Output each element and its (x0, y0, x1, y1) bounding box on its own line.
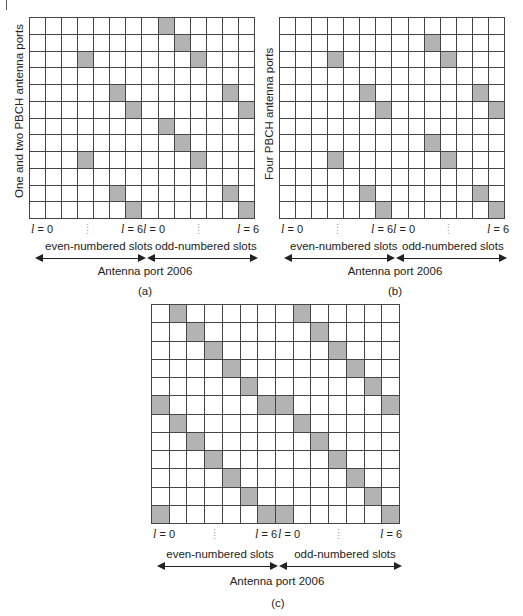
grid-cell (311, 396, 329, 414)
grid-cell (170, 378, 188, 396)
grid-cell (205, 469, 223, 487)
grid-cell (258, 360, 276, 378)
grid-cell (280, 35, 296, 52)
grid-cell (328, 135, 344, 152)
grid-cell (170, 433, 188, 451)
grid-cell (329, 433, 347, 451)
grid-cell (159, 52, 175, 69)
grid-cell (489, 85, 505, 102)
antenna-port-label-b: Antenna port 2006 (340, 265, 450, 277)
grid-cell (311, 506, 329, 524)
grid-cell (207, 18, 223, 35)
grid-cell (347, 488, 365, 506)
grid-cell (175, 102, 191, 119)
grid-cell (392, 186, 408, 203)
grid-cell (280, 202, 296, 219)
grid-cell (241, 451, 259, 469)
grid-cell (126, 35, 142, 52)
grid-cell (365, 506, 383, 524)
grid-cell (205, 378, 223, 396)
grid-cell (409, 202, 425, 219)
grid-cell (344, 35, 360, 52)
grid-cell (78, 85, 94, 102)
grid-cell (187, 415, 205, 433)
grid-cell (457, 52, 473, 69)
grid-cell (347, 415, 365, 433)
reference-signal-cell (382, 506, 400, 524)
grid-cell (376, 135, 392, 152)
reference-signal-cell (175, 135, 191, 152)
grid-cell (360, 52, 376, 69)
grid-cell (489, 119, 505, 136)
grid-cell (409, 186, 425, 203)
reference-signal-cell (110, 85, 126, 102)
grid-cell (205, 396, 223, 414)
reference-signal-cell (191, 52, 207, 69)
grid-cell (441, 135, 457, 152)
grid-cell (382, 360, 400, 378)
grid-cell (294, 360, 312, 378)
tick-l0-mid-a: l = 0 (143, 222, 165, 237)
grid-cell (457, 169, 473, 186)
grid-cell (365, 451, 383, 469)
grid-cell (441, 186, 457, 203)
grid-cell (205, 506, 223, 524)
grid-cell (280, 85, 296, 102)
grid-cell (152, 433, 170, 451)
grid-cell (126, 186, 142, 203)
grid-cell (425, 18, 441, 35)
grid-cell (239, 18, 255, 35)
grid-cell (241, 396, 259, 414)
grid-cell (365, 342, 383, 360)
reference-signal-cell (223, 360, 241, 378)
grid-cell (223, 68, 239, 85)
grid-cell (473, 18, 489, 35)
grid-cell (489, 135, 505, 152)
reference-signal-cell (223, 85, 239, 102)
grid-cell (170, 342, 188, 360)
grid-cell (365, 396, 383, 414)
tick-l0-left-c: l = 0 (153, 527, 175, 542)
grid-cell (191, 186, 207, 203)
grid-cell (392, 202, 408, 219)
grid-cell (473, 202, 489, 219)
grid-cell (344, 85, 360, 102)
reference-signal-cell (365, 378, 383, 396)
grid-cell (187, 396, 205, 414)
grid-cell (457, 18, 473, 35)
grid-cell (382, 415, 400, 433)
grid-cell (311, 451, 329, 469)
grid-cell (294, 378, 312, 396)
grid-cell (344, 152, 360, 169)
grid-cell (276, 451, 294, 469)
grid-cell (223, 169, 239, 186)
grid-cell (296, 169, 312, 186)
grid-cell (344, 18, 360, 35)
grid-cell (425, 152, 441, 169)
grid-cell (187, 378, 205, 396)
grid-cell (207, 35, 223, 52)
grid-cell (280, 18, 296, 35)
grid-cell (46, 186, 62, 203)
reference-signal-cell (473, 85, 489, 102)
grid-cell (142, 52, 158, 69)
grid-cell (276, 323, 294, 341)
grid-cell (328, 68, 344, 85)
grid-cell (409, 85, 425, 102)
grid-cell (425, 68, 441, 85)
ellipsis-dots-a1: ···· (86, 223, 89, 235)
grid-cell (473, 119, 489, 136)
grid-cell (473, 52, 489, 69)
grid-cell (409, 102, 425, 119)
grid-cell (258, 469, 276, 487)
grid-cell (457, 68, 473, 85)
grid-cell (344, 68, 360, 85)
grid-cell (30, 52, 46, 69)
grid-cell (360, 152, 376, 169)
grid-cell (360, 102, 376, 119)
reference-signal-cell (187, 433, 205, 451)
grid-cell (205, 305, 223, 323)
grid-cell (294, 506, 312, 524)
reference-signal-cell (170, 415, 188, 433)
grid-cell (152, 360, 170, 378)
